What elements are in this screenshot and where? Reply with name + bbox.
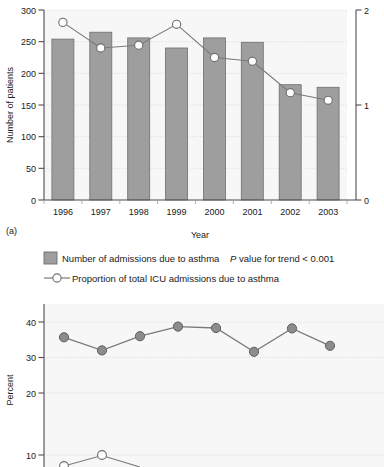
panel-b-open-point-1997 [98, 451, 107, 460]
marker-1999 [173, 20, 181, 28]
marker-2003 [324, 96, 332, 104]
panel-a-right-ticks [356, 10, 362, 200]
ytick-300: 300 [21, 6, 36, 16]
panel-b-point-2003 [325, 341, 334, 350]
panel-a-left-ticks [39, 10, 45, 200]
panel-b-point-1998 [135, 332, 144, 341]
bar-1999 [166, 48, 188, 200]
ytick-50: 50 [26, 164, 36, 174]
ytick-250: 250 [21, 37, 36, 47]
panel-b: 40 30 20 10 Percent [5, 304, 384, 467]
panel-a-y-axis-title: Number of patients [5, 66, 15, 143]
xtick-1998: 1998 [129, 207, 149, 217]
figure-svg: 300 250 200 150 100 50 0 [0, 0, 384, 467]
panel-a-left-tick-labels: 300 250 200 150 100 50 0 [21, 6, 36, 206]
ytick-100: 100 [21, 132, 36, 142]
marker-1998 [135, 41, 143, 49]
bar-2001 [241, 42, 263, 200]
ytick-150: 150 [21, 101, 36, 111]
y2tick-1: 1 [364, 101, 369, 111]
panel-b-point-1996 [59, 333, 68, 342]
xtick-2002: 2002 [280, 207, 300, 217]
legend-pvalue: P value for trend < 0.001 [230, 253, 334, 264]
panel-b-point-2002 [287, 324, 296, 333]
marker-2000 [210, 53, 218, 61]
panel-a-xtick-labels: 1996 1997 1998 1999 2000 2001 2002 2003 [53, 207, 338, 217]
marker-2002 [286, 89, 294, 97]
legend-pvalue-rest: value for trend < 0.001 [236, 253, 334, 264]
panel-a-right-tick-labels: 2 1 0 [364, 6, 369, 206]
figure-legend: Number of admissions due to asthma P val… [44, 252, 334, 284]
legend-open-circle-icon [53, 274, 61, 282]
panel-b-left-ticks [39, 322, 45, 455]
xtick-2001: 2001 [242, 207, 262, 217]
panel-a-label: (a) [6, 226, 17, 236]
panel-a-x-axis-title: Year [191, 230, 209, 240]
panel-b-y-axis-title: Percent [5, 374, 15, 406]
legend-line-marker [44, 274, 70, 282]
panel-b-ytick-40: 40 [26, 318, 36, 328]
panel-b-left-tick-labels: 40 30 20 10 [26, 318, 36, 461]
xtick-1997: 1997 [91, 207, 111, 217]
panel-b-ytick-20: 20 [26, 389, 36, 399]
bar-1996 [52, 39, 74, 200]
panel-a: 300 250 200 150 100 50 0 [5, 6, 369, 241]
bar-2000 [203, 38, 225, 200]
ytick-0: 0 [31, 196, 36, 206]
legend-line-label: Proportion of total ICU admissions due t… [72, 273, 280, 284]
panel-b-point-2000 [211, 323, 220, 332]
bar-1998 [128, 38, 150, 200]
panel-a-bottom-ticks [44, 200, 347, 204]
xtick-1996: 1996 [53, 207, 73, 217]
panel-b-point-2001 [249, 347, 258, 356]
xtick-1999: 1999 [167, 207, 187, 217]
legend-bar-swatch [44, 252, 57, 264]
marker-1996 [59, 18, 67, 26]
xtick-2003: 2003 [318, 207, 338, 217]
legend-bar-label: Number of admissions due to asthma [62, 253, 220, 264]
xtick-2000: 2000 [204, 207, 224, 217]
bar-1997 [90, 32, 112, 200]
y2tick-0: 0 [364, 196, 369, 206]
panel-b-ytick-10: 10 [26, 451, 36, 461]
panel-b-open-point-1996 [60, 462, 69, 467]
panel-b-point-1999 [173, 322, 182, 331]
bar-2002 [279, 85, 301, 200]
y2tick-2: 2 [364, 6, 369, 16]
panel-b-ytick-30: 30 [26, 353, 36, 363]
ytick-200: 200 [21, 69, 36, 79]
figure-container: 300 250 200 150 100 50 0 [0, 0, 384, 467]
marker-1997 [97, 44, 105, 52]
panel-b-point-1997 [97, 346, 106, 355]
marker-2001 [248, 57, 256, 65]
